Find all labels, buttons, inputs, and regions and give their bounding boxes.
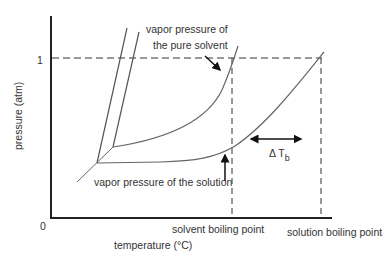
solution-vp-label: vapor pressure of the solution — [94, 177, 232, 188]
pure-solvent-curve — [113, 46, 238, 147]
delta-subscript: b — [285, 153, 290, 163]
solution-bp-label: solution boiling point — [287, 227, 382, 238]
y-tick-0: 0 — [40, 221, 46, 232]
pure-solvent-label-line1: vapor pressure of — [146, 24, 228, 35]
solvent-solid-liquid-line — [113, 32, 139, 147]
pure-solvent-label-line2: the pure solvent — [153, 40, 228, 51]
y-axis-label: pressure (atm) — [12, 82, 24, 150]
delta-t-text: Δ T — [269, 147, 285, 159]
x-axis-label: temperature (°C) — [114, 240, 192, 251]
solvent-bp-label: solvent boiling point — [172, 224, 264, 235]
y-tick-1: 1 — [37, 55, 43, 66]
solution-solid-liquid-line — [97, 28, 127, 163]
phase-diagram: 1 0 pressure (atm) temperature (°C) solv… — [0, 0, 390, 262]
delta-tb-label: Δ Tb — [269, 148, 290, 159]
